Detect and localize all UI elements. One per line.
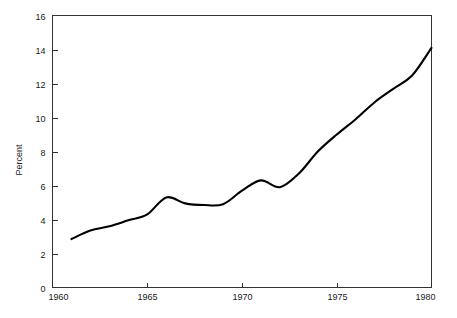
x-tick-label: 1960 — [49, 292, 69, 302]
x-axis-ticks — [148, 283, 338, 288]
y-tick-label: 16 — [35, 12, 45, 22]
data-series-group — [71, 48, 431, 239]
y-tick-label: 2 — [40, 250, 45, 260]
x-tick-label: 1970 — [232, 292, 252, 302]
y-axis-ticks — [53, 51, 58, 255]
y-tick-label: 10 — [35, 114, 45, 124]
y-tick-label: 14 — [35, 46, 45, 56]
x-tick-label: 1965 — [137, 292, 157, 302]
data-series-line — [71, 48, 431, 239]
x-axis-tick-labels: 19601965197019751980 — [49, 292, 436, 302]
y-tick-label: 8 — [40, 148, 45, 158]
plot-frame — [53, 16, 432, 288]
x-tick-label: 1980 — [415, 292, 435, 302]
y-tick-label: 12 — [35, 80, 45, 90]
y-axis-tick-labels: 0246810121416 — [35, 12, 45, 294]
y-axis-title: Percent — [14, 144, 24, 176]
chart-container: 0246810121416 19601965197019751980 Perce… — [0, 0, 457, 318]
y-tick-label: 0 — [40, 284, 45, 294]
line-chart: 0246810121416 19601965197019751980 Perce… — [0, 0, 457, 318]
x-tick-label: 1975 — [327, 292, 347, 302]
y-tick-label: 4 — [40, 216, 45, 226]
y-tick-label: 6 — [40, 182, 45, 192]
